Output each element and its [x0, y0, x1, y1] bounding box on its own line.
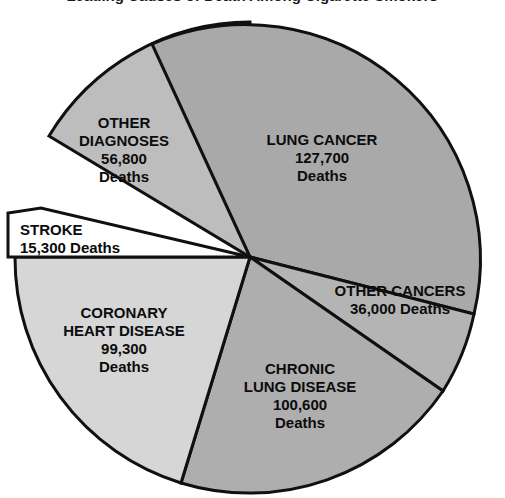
lung-cancer-label-line1: LUNG CANCER	[267, 131, 378, 148]
other-cancers-label-line1: OTHER CANCERS	[335, 282, 466, 299]
stroke-label-line1: STROKE	[20, 221, 83, 238]
chronic-lung-disease-label-value: 100,600	[273, 396, 327, 413]
lung-cancer-label-value: 127,700	[295, 149, 349, 166]
pie-chart-svg: STROKE 15,300 Deaths OTHER DIAGNOSES 56,…	[0, 0, 505, 498]
chronic-lung-disease-label-unit: Deaths	[275, 414, 325, 431]
pie-chart-figure: Leading Causes of Death Among Cigarette …	[0, 0, 505, 498]
chronic-lung-disease-label-line2: LUNG DISEASE	[244, 378, 357, 395]
other-cancers-label-line2: 36,000 Deaths	[350, 300, 450, 317]
stroke-label-line2: 15,300 Deaths	[20, 239, 120, 256]
chart-title-text: Leading Causes of Death Among Cigarette …	[66, 0, 437, 4]
other-diagnoses-label-unit: Deaths	[99, 168, 149, 185]
lung-cancer-label-unit: Deaths	[297, 167, 347, 184]
coronary-heart-disease-label-line1: CORONARY	[81, 304, 168, 321]
other-diagnoses-label-line2: DIAGNOSES	[79, 132, 169, 149]
coronary-heart-disease-label-value: 99,300	[101, 340, 147, 357]
chronic-lung-disease-label-line1: CHRONIC	[265, 360, 335, 377]
other-diagnoses-label-value: 56,800	[101, 150, 147, 167]
chart-title-clipped: Leading Causes of Death Among Cigarette …	[0, 0, 505, 4]
coronary-heart-disease-label-line2: HEART DISEASE	[63, 322, 185, 339]
other-diagnoses-label-line1: OTHER	[98, 114, 151, 131]
coronary-heart-disease-label-unit: Deaths	[99, 358, 149, 375]
